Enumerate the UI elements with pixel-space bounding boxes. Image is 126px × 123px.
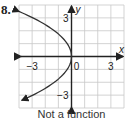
tick-labels: xy−3033−3 — [26, 4, 125, 101]
y-tick-label: 3 — [63, 13, 69, 24]
x-tick-label: −3 — [26, 61, 38, 72]
x-tick-label: 3 — [108, 61, 114, 72]
y-tick-label: −3 — [57, 90, 69, 101]
x-axis-label: x — [118, 44, 125, 55]
y-axis-label: y — [75, 4, 82, 15]
graph: xy−3033−3 — [0, 0, 126, 123]
caption: Not a function — [19, 108, 124, 120]
x-tick-label: 0 — [74, 61, 80, 72]
